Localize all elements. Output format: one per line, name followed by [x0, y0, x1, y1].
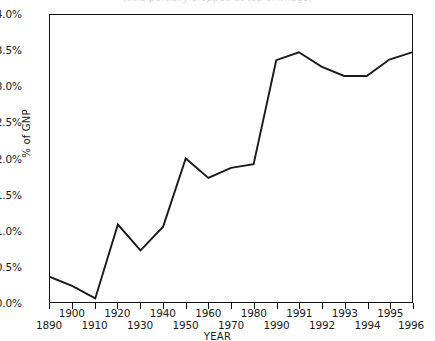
x-tick-label-1950: 1950 [172, 319, 198, 331]
x-tick-mark-1970 [231, 303, 232, 309]
x-tick-label-1960: 1960 [195, 307, 221, 319]
x-axis-label: YEAR [0, 331, 435, 341]
y-tick-label-0: 0.0% [0, 297, 22, 309]
x-tick-label-1970: 1970 [218, 319, 244, 331]
plot-area [49, 14, 413, 303]
x-tick-label-1994: 1994 [354, 319, 380, 331]
x-tick-mark-1950 [186, 303, 187, 309]
x-tick-label-1990: 1990 [263, 319, 289, 331]
y-tick-label-3: 3.0% [0, 80, 22, 92]
x-tick-label-1980: 1980 [241, 307, 267, 319]
x-tick-mark-1930 [140, 303, 141, 309]
y-tick-label-2p5: 2.5% [0, 116, 22, 128]
x-tick-label-1991: 1991 [286, 307, 312, 319]
x-tick-label-1996: 1996 [398, 319, 424, 331]
y-tick-label-2: 2.0% [0, 153, 22, 165]
x-tick-label-1920: 1920 [104, 307, 130, 319]
x-tick-mark-1910 [95, 303, 96, 309]
x-tick-label-1992: 1992 [309, 319, 335, 331]
x-tick-label-1930: 1930 [127, 319, 153, 331]
y-tick-label-0p5: 0.5% [0, 261, 22, 273]
x-tick-mark-1992 [322, 303, 323, 309]
x-tick-mark-1996 [413, 303, 414, 309]
x-tick-mark-1890 [49, 303, 50, 309]
x-tick-label-1993: 1993 [332, 307, 358, 319]
y-tick-label-4: 4.0% [0, 8, 22, 20]
x-tick-mark-1994 [368, 303, 369, 309]
y-tick-label-1p5: 1.5% [0, 189, 22, 201]
y-tick-label-1: 1.0% [0, 225, 22, 237]
x-tick-label-1890: 1890 [36, 319, 62, 331]
y-axis-label: % of GNP [21, 89, 32, 179]
chart-container: (title partially cropped at top of image… [0, 0, 435, 341]
data-line-svg [50, 15, 412, 302]
x-tick-label-1940: 1940 [150, 307, 176, 319]
data-series-line [50, 52, 412, 298]
y-tick-label-3p5: 3.5% [0, 44, 22, 56]
x-tick-label-1900: 1900 [59, 307, 85, 319]
x-tick-label-1910: 1910 [81, 319, 107, 331]
x-tick-label-1995: 1995 [377, 307, 403, 319]
chart-title: (title partially cropped at top of image… [0, 0, 435, 4]
x-tick-mark-1990 [277, 303, 278, 309]
